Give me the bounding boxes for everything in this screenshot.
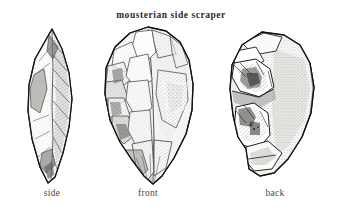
- side-view-drawing: [22, 27, 86, 185]
- caption-side: side: [12, 188, 92, 198]
- front-view-drawing: [96, 24, 206, 187]
- figure-back: [216, 29, 324, 184]
- page-title: mousterian side scraper: [0, 10, 342, 20]
- back-view-drawing: [216, 29, 324, 184]
- figure-front: [96, 24, 206, 187]
- caption-front: front: [108, 188, 188, 198]
- caption-back: back: [235, 188, 315, 198]
- illustration-plate: mousterian side scraper: [0, 0, 342, 212]
- figure-side: [22, 27, 86, 185]
